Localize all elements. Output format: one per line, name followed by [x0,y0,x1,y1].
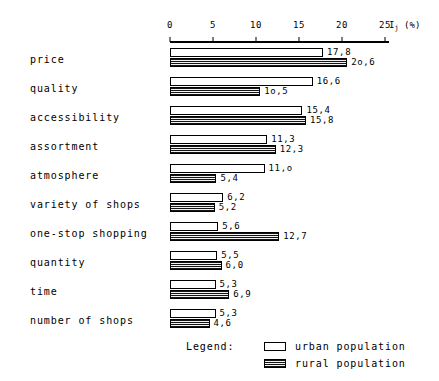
bar-urban [170,48,323,57]
bar-value-label: 5,5 [221,250,239,260]
axis-line [170,41,389,43]
category-label: number of shops [30,315,134,326]
axis-tick-mark [170,37,171,42]
axis-tick-label: 10 [250,20,262,30]
bar-value-label: 11,3 [271,134,295,144]
legend-label-urban: urban population [295,341,406,352]
chart-rows: price17,82o,6quality16,61o,5accessibilit… [0,47,439,337]
chart-row: number of shops5,34,6 [0,308,439,337]
axis-tick-mark [299,37,300,42]
chart-row: price17,82o,6 [0,47,439,76]
bar-urban [170,77,313,86]
axis-tick-mark [213,37,214,42]
category-label: variety of shops [30,199,141,210]
bar-rural [170,261,222,270]
legend-swatch-rural-icon [264,359,286,368]
axis-tick-mark [385,37,386,42]
bar-value-label: 5,2 [219,202,237,212]
chart-row: atmosphere11,o5,4 [0,163,439,192]
chart-row: assortment11,312,3 [0,134,439,163]
legend-item-urban: urban population [264,340,406,355]
bar-rural [170,87,260,96]
bar-rural [170,58,347,67]
category-label: quantity [30,257,85,268]
axis-tick-label: 5 [210,20,216,30]
bar-value-label: 5,4 [220,173,238,183]
bar-urban [170,251,217,260]
bar-urban [170,106,302,115]
bar-value-label: 6,9 [233,289,251,299]
bar-rural [170,145,276,154]
bar-value-label: 11,o [269,163,293,173]
chart-row: one-stop shopping5,612,7 [0,221,439,250]
category-label: assortment [30,141,99,152]
bar-value-label: 12,7 [283,231,307,241]
bar-rural [170,319,210,328]
axis-tick-mark [342,37,343,42]
bar-urban [170,280,216,289]
bar-value-label: 5,6 [222,221,240,231]
legend-label-rural: rural population [295,358,406,369]
category-label: one-stop shopping [30,228,148,239]
category-label: price [30,54,65,65]
chart-row: quantity5,56,0 [0,250,439,279]
bar-value-label: 15,8 [310,115,334,125]
bar-value-label: 2o,6 [351,57,375,67]
bar-rural [170,203,215,212]
category-label: quality [30,83,78,94]
category-label: accessibility [30,112,120,123]
axis-tick-label: 15 [293,20,305,30]
bar-rural [170,232,279,241]
chart-row: variety of shops6,25,2 [0,192,439,221]
horizontal-bar-chart: 0510152025 Ij (%) price17,82o,6quality16… [0,0,439,381]
bar-value-label: 1o,5 [264,86,288,96]
bar-value-label: 17,8 [327,47,351,57]
axis-tick-mark [256,37,257,42]
bar-value-label: 5,3 [220,279,238,289]
legend-title: Legend: [186,341,234,352]
bar-urban [170,164,265,173]
category-label: time [30,286,58,297]
chart-row: quality16,61o,5 [0,76,439,105]
legend-swatch-urban-icon [264,342,286,351]
x-axis: 0510152025 Ij (%) [170,20,385,46]
chart-row: time5,36,9 [0,279,439,308]
bar-value-label: 6,2 [227,192,245,202]
axis-tick-label: 20 [336,20,348,30]
legend-item-rural: rural population [264,357,406,372]
bar-value-label: 16,6 [317,76,341,86]
chart-row: accessibility15,415,8 [0,105,439,134]
axis-unit-label: Ij (%) [389,20,420,32]
bar-urban [170,193,223,202]
bar-rural [170,174,216,183]
bar-urban [170,309,216,318]
bar-urban [170,222,218,231]
bar-value-label: 6,0 [226,260,244,270]
bar-value-label: 15,4 [306,105,330,115]
bar-rural [170,116,306,125]
bar-urban [170,135,267,144]
axis-unit-suffix: (%) [399,20,421,30]
bar-value-label: 5,3 [220,308,238,318]
bar-value-label: 12,3 [280,144,304,154]
axis-tick-label: 0 [167,20,173,30]
bar-rural [170,290,229,299]
category-label: atmosphere [30,170,99,181]
bar-value-label: 4,6 [214,318,232,328]
